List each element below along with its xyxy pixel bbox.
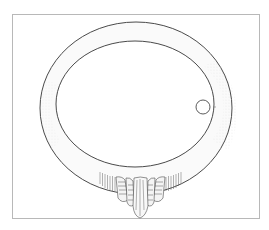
ring-drawing bbox=[0, 0, 269, 230]
hole-icon bbox=[196, 100, 210, 114]
